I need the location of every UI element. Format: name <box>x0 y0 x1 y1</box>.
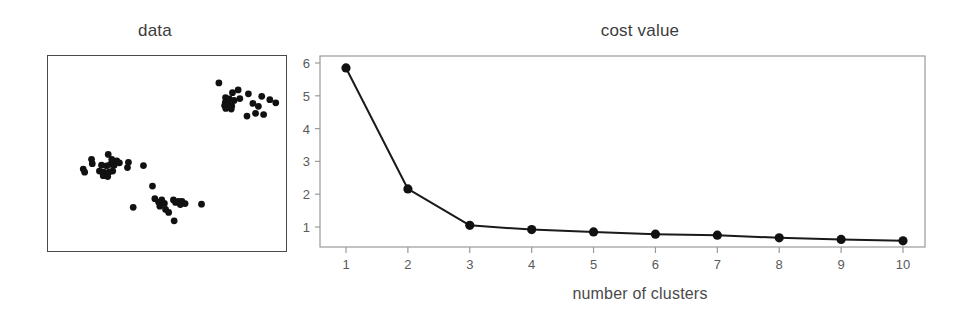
scatter-point <box>198 201 205 208</box>
scatter-point <box>140 162 147 169</box>
cost-y-axis-ticks: 123456 <box>303 56 320 235</box>
scatter-point <box>130 204 137 211</box>
x-tick-label: 10 <box>896 257 910 272</box>
cost-data-point <box>713 231 722 240</box>
scatter-point <box>216 80 223 87</box>
cost-panel: cost value 123456 12345678910 number of … <box>300 0 976 318</box>
cost-data-point <box>775 233 784 242</box>
scatter-point <box>109 168 116 175</box>
y-tick-label: 1 <box>303 220 310 235</box>
scatter-point <box>252 110 259 117</box>
scatter-panel: data <box>0 0 310 318</box>
y-tick-label: 3 <box>303 154 310 169</box>
scatter-point <box>245 90 252 97</box>
cost-data-point <box>465 221 474 230</box>
scatter-point <box>255 103 262 110</box>
cost-data-point <box>341 63 350 72</box>
scatter-point <box>244 113 251 120</box>
x-tick-label: 7 <box>714 257 721 272</box>
cost-data-point <box>589 227 598 236</box>
scatter-point <box>171 217 178 224</box>
cost-data-point <box>837 235 846 244</box>
scatter-points-layer <box>48 56 286 251</box>
scatter-point <box>165 209 172 216</box>
cost-plot-frame <box>320 56 925 247</box>
scatter-point-group <box>80 80 279 225</box>
cost-data-point <box>898 236 907 245</box>
scatter-point <box>104 173 111 180</box>
y-tick-label: 5 <box>303 89 310 104</box>
x-tick-label: 2 <box>404 257 411 272</box>
cost-x-axis-ticks: 12345678910 <box>342 247 910 272</box>
scatter-point <box>111 162 118 169</box>
scatter-plot-area <box>47 55 287 252</box>
scatter-point <box>124 164 131 171</box>
x-tick-label: 8 <box>776 257 783 272</box>
scatter-point <box>182 200 189 207</box>
scatter-point <box>81 169 88 176</box>
scatter-plot-title: data <box>0 21 310 41</box>
x-tick-label: 5 <box>590 257 597 272</box>
cost-data-point <box>527 225 536 234</box>
scatter-point <box>229 89 236 96</box>
scatter-point <box>258 93 265 100</box>
cost-data-point <box>403 184 412 193</box>
cost-plot-svg: 123456 12345678910 <box>300 0 976 318</box>
y-tick-label: 6 <box>303 56 310 71</box>
clustering-figure: data cost value 123456 12345678910 numbe… <box>0 0 976 318</box>
x-tick-label: 3 <box>466 257 473 272</box>
scatter-point <box>235 87 242 94</box>
cost-plot-xaxis-label: number of clusters <box>515 285 765 303</box>
x-tick-label: 6 <box>652 257 659 272</box>
scatter-point <box>260 111 267 118</box>
scatter-point <box>266 96 273 103</box>
scatter-point <box>272 99 279 106</box>
cost-data-point <box>651 230 660 239</box>
x-tick-label: 1 <box>342 257 349 272</box>
y-tick-label: 2 <box>303 187 310 202</box>
x-tick-label: 9 <box>837 257 844 272</box>
scatter-point <box>89 160 96 167</box>
scatter-point <box>236 95 243 102</box>
y-tick-label: 4 <box>303 122 310 137</box>
scatter-point <box>149 183 156 190</box>
x-tick-label: 4 <box>528 257 535 272</box>
scatter-point <box>161 200 168 207</box>
scatter-point <box>228 106 235 113</box>
